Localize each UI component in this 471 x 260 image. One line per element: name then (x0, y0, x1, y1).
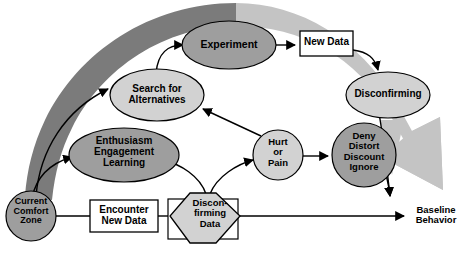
node-encounter-new-data[interactable] (90, 200, 158, 232)
node-search-for-alternatives[interactable] (110, 69, 204, 121)
edge-hurt-search (203, 109, 261, 136)
node-disconfirming[interactable] (346, 72, 430, 118)
node-experiment[interactable] (182, 21, 276, 69)
diagram-svg (0, 0, 471, 260)
node-hurt-or-pain[interactable] (253, 130, 303, 180)
node-current-comfort-zone[interactable] (6, 191, 56, 241)
node-deny-distort-discount-ignore[interactable] (332, 123, 396, 187)
node-new-data[interactable] (300, 31, 353, 56)
edge-disconfirming-hurt (210, 160, 253, 194)
node-enthusiasm-engagement-learning[interactable] (69, 128, 179, 182)
diagram-canvas: Current Comfort Zone Encounter New Data … (0, 0, 471, 260)
